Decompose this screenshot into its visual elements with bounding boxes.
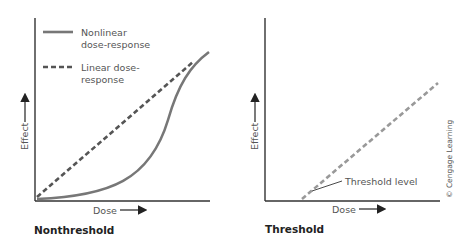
y-axis-label: Effect xyxy=(249,122,260,150)
x-axis-label: Dose xyxy=(332,204,356,215)
y-axis-label: Effect xyxy=(19,122,30,150)
legend-linear-line2: response xyxy=(81,74,124,85)
legend-linear-line1: Linear dose- xyxy=(81,62,140,73)
copyright-credit: © Cengage Learning xyxy=(445,120,454,198)
nonthreshold-panel: Nonlinear dose-response Linear dose- res… xyxy=(19,18,210,236)
threshold-annotation: Threshold level xyxy=(344,176,417,187)
legend-nonlinear-line2: dose-response xyxy=(81,39,150,50)
panel-title: Threshold xyxy=(265,223,324,235)
legend-nonlinear-line1: Nonlinear xyxy=(81,27,127,38)
panel-title: Nonthreshold xyxy=(34,224,114,236)
x-axis-label: Dose xyxy=(93,205,117,216)
threshold-panel: Threshold level Effect Dose Threshold xyxy=(249,18,440,235)
dose-response-diagram: Nonlinear dose-response Linear dose- res… xyxy=(0,0,461,246)
